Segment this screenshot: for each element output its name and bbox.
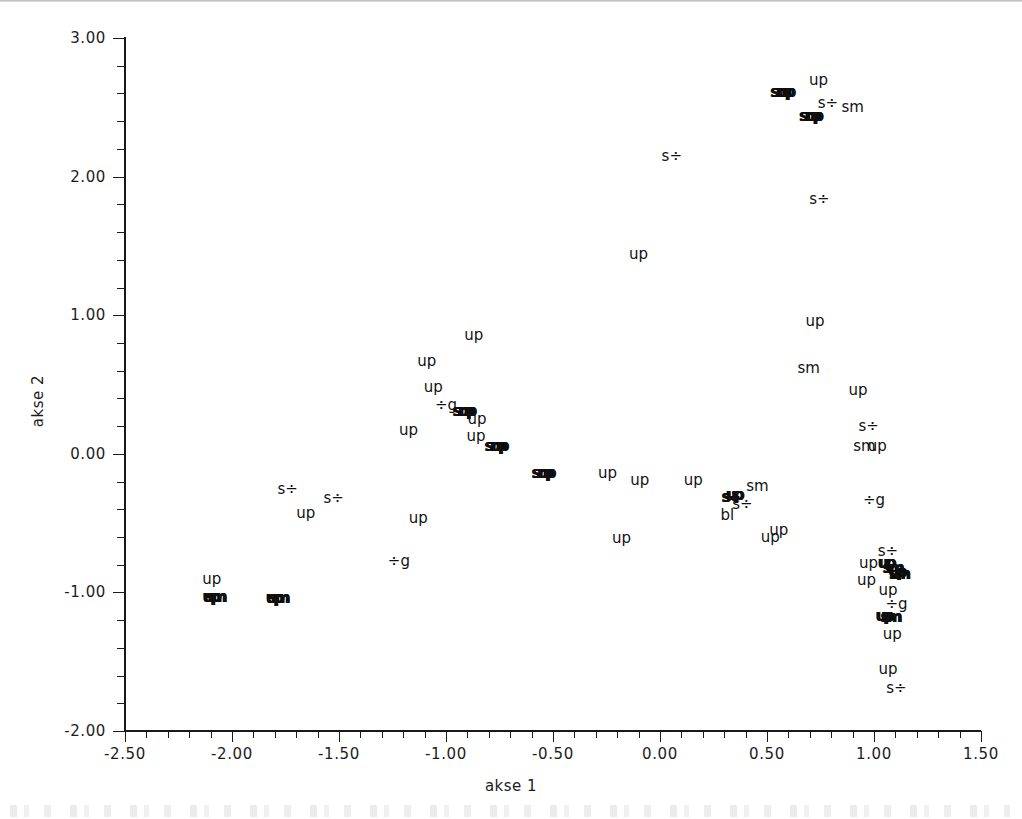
data-point-label: sm	[269, 590, 288, 605]
x-tick-minor	[403, 731, 404, 738]
y-tick-minor	[117, 93, 124, 94]
data-point-label: sm	[881, 610, 900, 625]
data-point-label: ÷g	[863, 492, 885, 507]
y-tick-minor	[117, 121, 124, 122]
y-tick-minor	[117, 565, 124, 566]
x-tick-minor	[510, 731, 511, 738]
data-point-label: up	[202, 571, 221, 586]
x-tick-label: -1.50	[318, 745, 360, 763]
x-tick-minor	[917, 731, 918, 738]
x-axis-title: akse 1	[0, 777, 1022, 795]
x-tick-minor	[746, 731, 747, 738]
y-tick-minor	[117, 482, 124, 483]
x-tick-major	[339, 731, 340, 742]
y-tick-minor	[117, 398, 124, 399]
x-tick-minor	[724, 731, 725, 738]
data-point-label: up	[883, 627, 902, 642]
y-tick-minor	[117, 537, 124, 538]
y-tick-label: -1.00	[44, 583, 106, 601]
data-point-label: sm	[206, 589, 225, 604]
y-tick-minor	[117, 343, 124, 344]
data-point-label: up	[805, 108, 820, 123]
x-tick-major	[767, 731, 768, 742]
data-point-label: up	[777, 85, 792, 100]
data-point-label: up	[857, 572, 876, 587]
data-point-label: s÷	[809, 191, 829, 206]
x-tick-minor	[253, 731, 254, 738]
x-tick-label: 1.00	[856, 745, 892, 763]
y-axis-line	[124, 37, 126, 732]
y-tick-minor	[117, 149, 124, 150]
y-tick-minor	[117, 232, 124, 233]
x-tick-minor	[681, 731, 682, 738]
x-tick-major	[981, 731, 982, 742]
y-tick-label: 0.00	[44, 445, 106, 463]
x-tick-minor	[168, 731, 169, 738]
x-tick-minor	[788, 731, 789, 738]
data-point-label: up	[538, 466, 553, 481]
data-point-label: s÷	[732, 496, 752, 511]
x-tick-minor	[960, 731, 961, 738]
data-point-label: up	[868, 438, 887, 453]
y-tick-minor	[117, 620, 124, 621]
x-tick-minor	[189, 731, 190, 738]
y-tick-label: 3.00	[44, 29, 106, 47]
y-tick-label: 2.00	[44, 168, 106, 186]
data-point-label: s÷	[858, 419, 878, 434]
data-point-label: up	[467, 412, 486, 427]
x-tick-minor	[296, 731, 297, 738]
x-tick-label: -1.00	[425, 745, 467, 763]
y-tick-minor	[117, 676, 124, 677]
data-point-label: s÷	[277, 481, 297, 496]
y-tick-minor	[117, 288, 124, 289]
data-point-label: up	[464, 327, 483, 342]
x-tick-major	[660, 731, 661, 742]
scan-artifact-text	[10, 805, 1010, 817]
x-tick-minor	[853, 731, 854, 738]
data-point-label: up	[684, 473, 703, 488]
x-tick-minor	[574, 731, 575, 738]
x-tick-minor	[382, 731, 383, 738]
data-point-label: up	[878, 661, 897, 676]
x-tick-minor	[617, 731, 618, 738]
x-tick-minor	[467, 731, 468, 738]
x-tick-minor	[895, 731, 896, 738]
y-tick-minor	[117, 204, 124, 205]
x-tick-minor	[703, 731, 704, 738]
data-point-label: s÷	[886, 681, 906, 696]
y-tick-major	[113, 177, 124, 178]
y-axis-title: akse 2	[29, 341, 47, 461]
x-tick-label: -0.50	[532, 745, 574, 763]
x-tick-major	[874, 731, 875, 742]
x-tick-minor	[425, 731, 426, 738]
y-tick-minor	[117, 648, 124, 649]
x-tick-major	[125, 731, 126, 742]
scan-top-edge	[0, 0, 1022, 2]
x-tick-label: 1.50	[963, 745, 999, 763]
data-point-label: up	[466, 428, 485, 443]
data-point-label: sm	[841, 100, 863, 115]
y-tick-major	[113, 38, 124, 39]
x-tick-minor	[596, 731, 597, 738]
data-point-label: sm	[797, 360, 819, 375]
y-tick-major	[113, 315, 124, 316]
data-point-label: up	[629, 247, 648, 262]
x-tick-minor	[146, 731, 147, 738]
data-point-label: up	[761, 530, 780, 545]
x-tick-label: 0.00	[642, 745, 678, 763]
data-point-label: ÷g	[388, 553, 410, 568]
y-tick-minor	[117, 703, 124, 704]
x-tick-label: -2.50	[104, 745, 146, 763]
x-tick-major	[446, 731, 447, 742]
x-tick-minor	[810, 731, 811, 738]
x-tick-minor	[831, 731, 832, 738]
x-tick-label: 0.50	[749, 745, 785, 763]
data-point-label: s÷	[323, 491, 343, 506]
y-tick-label: 1.00	[44, 306, 106, 324]
data-point-label: up	[296, 506, 315, 521]
x-tick-minor	[938, 731, 939, 738]
data-point-label: up	[491, 438, 506, 453]
x-tick-minor	[360, 731, 361, 738]
x-tick-major	[553, 731, 554, 742]
x-tick-minor	[489, 731, 490, 738]
